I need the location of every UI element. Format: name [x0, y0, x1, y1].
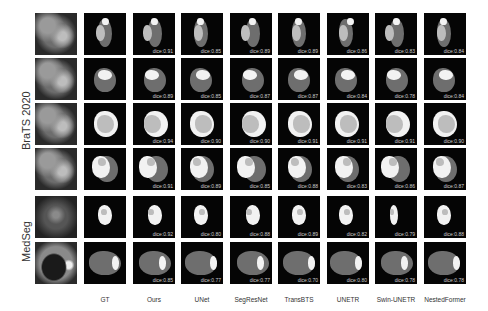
mask-region — [139, 251, 171, 275]
segmentation-cell: dice:0.87 — [230, 58, 272, 100]
mask-region — [195, 115, 212, 133]
mask-region — [390, 205, 398, 225]
mask-region — [148, 209, 154, 215]
mask-region — [381, 251, 413, 275]
mask-region — [194, 25, 203, 41]
dice-score: dice:0.85 — [153, 277, 173, 283]
dice-score: dice:0.86 — [395, 183, 415, 189]
segmentation-cell: dice:0.89 — [133, 58, 175, 100]
segmentation-cell: dice:0.88 — [424, 196, 466, 238]
mask-region — [387, 70, 401, 80]
input-mri-image — [35, 196, 77, 238]
dice-score: dice:0.88 — [444, 231, 464, 237]
dice-score: dice:0.86 — [347, 48, 367, 54]
dice-score: dice:0.90 — [201, 138, 221, 144]
segmentation-cell: dice:0.84 — [424, 13, 466, 55]
dice-score: dice:0.83 — [395, 48, 415, 54]
dice-score: dice:0.78 — [395, 93, 415, 99]
segmentation-cell: dice:0.86 — [375, 148, 417, 190]
segmentation-cell: dice:0.78 — [424, 242, 466, 284]
mask-region — [308, 256, 315, 270]
mask-region — [98, 205, 112, 225]
segmentation-cell: dice:0.91 — [133, 148, 175, 190]
mask-region — [292, 25, 301, 41]
mask-region — [339, 25, 348, 41]
mask-region — [440, 18, 447, 25]
segmentation-cell: dice:0.89 — [278, 13, 320, 55]
segmentation-cell: dice:0.85 — [230, 148, 272, 190]
mask-region — [390, 209, 394, 215]
mask-region — [340, 115, 357, 133]
mask-region — [442, 209, 448, 215]
segmentation-cell: dice:0.85 — [133, 242, 175, 284]
group-label-brats: BraTS 2020 — [20, 91, 32, 150]
dice-score: dice:0.79 — [395, 231, 415, 237]
segmentation-cell: dice:0.89 — [230, 13, 272, 55]
segmentation-cell: dice:0.90 — [181, 103, 223, 145]
mask-region — [341, 70, 355, 80]
dice-score: dice:0.70 — [298, 277, 318, 283]
dice-score: dice:0.92 — [153, 231, 173, 237]
mask-region — [246, 205, 260, 225]
segmentation-cell: dice:0.78 — [375, 242, 417, 284]
mask-region — [257, 256, 264, 270]
mask-region — [197, 18, 204, 25]
mask-region — [297, 209, 303, 215]
mask-region — [347, 18, 354, 25]
mask-region — [437, 25, 446, 41]
dice-score: dice:0.85 — [201, 93, 221, 99]
segmentation-cell: dice:0.77 — [181, 242, 223, 284]
mask-region — [293, 115, 310, 133]
mask-region — [196, 70, 210, 80]
segmentation-cell: dice:0.87 — [278, 58, 320, 100]
segmentation-cell: dice:0.82 — [327, 196, 369, 238]
mask-region — [145, 70, 159, 80]
input-mri-image — [35, 13, 77, 55]
segmentation-cell: dice:0.91 — [327, 103, 369, 145]
mask-region — [386, 115, 403, 133]
mask-region — [241, 25, 250, 41]
column-label: NestedFormer — [415, 296, 475, 303]
mask-region — [194, 205, 208, 225]
mask-region — [159, 256, 166, 270]
mask-region — [291, 158, 299, 166]
dice-score: dice:0.77 — [250, 277, 270, 283]
mask-region — [143, 25, 152, 41]
input-mri-image — [35, 103, 77, 145]
mask-region — [242, 115, 259, 133]
mask-region — [436, 158, 444, 166]
segmentation-cell: dice:0.94 — [133, 103, 175, 145]
mask-region — [98, 158, 106, 166]
mask-region — [249, 18, 256, 25]
segmentation-cell — [84, 13, 126, 55]
mask-region — [193, 158, 201, 166]
mask-region — [295, 18, 302, 25]
segmentation-cell: dice:0.90 — [230, 103, 272, 145]
dice-score: dice:0.85 — [250, 183, 270, 189]
segmentation-cell: dice:0.80 — [181, 196, 223, 238]
dice-score: dice:0.83 — [347, 183, 367, 189]
dice-score: dice:0.78 — [444, 277, 464, 283]
segmentation-cell: dice:0.85 — [181, 13, 223, 55]
segmentation-cell: dice:0.91 — [375, 103, 417, 145]
segmentation-cell: dice:0.85 — [181, 58, 223, 100]
mask-region — [243, 70, 257, 80]
segmentation-cell: dice:0.87 — [424, 148, 466, 190]
dice-score: dice:0.88 — [298, 183, 318, 189]
mask-region — [102, 18, 109, 25]
input-mri-image — [35, 148, 77, 190]
dice-score: dice:0.89 — [250, 48, 270, 54]
dice-score: dice:0.91 — [347, 138, 367, 144]
mask-region — [97, 115, 114, 133]
dice-score: dice:0.80 — [201, 231, 221, 237]
dice-score: dice:0.84 — [444, 48, 464, 54]
mask-region — [439, 70, 453, 80]
segmentation-cell — [84, 196, 126, 238]
segmentation-cell: dice:0.90 — [424, 103, 466, 145]
mask-region — [199, 209, 205, 215]
mask-region — [339, 205, 353, 225]
mask-region — [453, 256, 460, 270]
mask-region — [437, 205, 451, 225]
dice-score: dice:0.88 — [250, 231, 270, 237]
segmentation-cell: dice:0.91 — [278, 103, 320, 145]
